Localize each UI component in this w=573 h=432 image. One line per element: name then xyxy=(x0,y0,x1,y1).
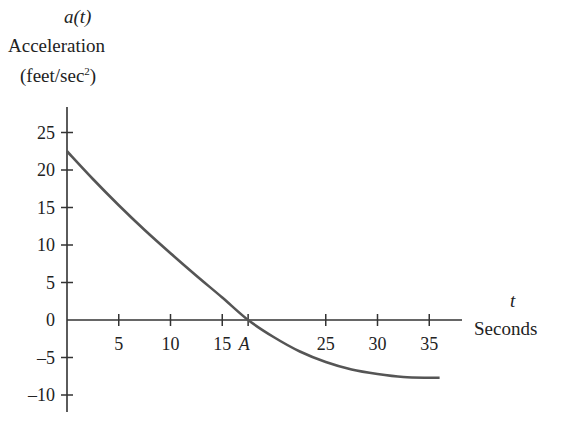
y-tick-label: 10 xyxy=(37,235,55,255)
y-tick-label: 0 xyxy=(46,310,55,330)
y-tick-label: 15 xyxy=(37,198,55,218)
acceleration-chart: 2520151050–5–10 51015A253035 xyxy=(0,0,573,432)
y-tick-label: 20 xyxy=(37,160,55,180)
x-tick-label: 30 xyxy=(369,334,387,354)
x-tick-label-A: A xyxy=(238,334,251,354)
y-tick-label: –5 xyxy=(36,348,55,368)
axes xyxy=(67,107,462,412)
x-tick-label: 35 xyxy=(420,334,438,354)
y-ticks: 2520151050–5–10 xyxy=(27,123,73,406)
x-tick-label: 15 xyxy=(213,334,231,354)
x-tick-label: 10 xyxy=(162,334,180,354)
x-tick-label: 5 xyxy=(114,334,123,354)
y-tick-label: 5 xyxy=(46,273,55,293)
y-tick-label: 25 xyxy=(37,123,55,143)
y-tick-label: –10 xyxy=(27,385,55,405)
x-tick-label: 25 xyxy=(317,334,335,354)
